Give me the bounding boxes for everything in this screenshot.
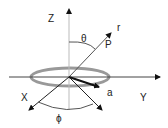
phi-label: ϕ xyxy=(56,113,62,124)
spherical-coordinate-diagram: Z r θ P a Y X ϕ xyxy=(0,0,168,128)
x-label: X xyxy=(21,92,28,103)
theta-label: θ xyxy=(81,33,87,44)
r-label: r xyxy=(117,22,121,33)
y-label: Y xyxy=(140,92,147,103)
a-label: a xyxy=(107,87,113,98)
phi-arc xyxy=(38,102,93,110)
z-label: Z xyxy=(48,13,54,24)
p-label: P xyxy=(105,39,112,50)
